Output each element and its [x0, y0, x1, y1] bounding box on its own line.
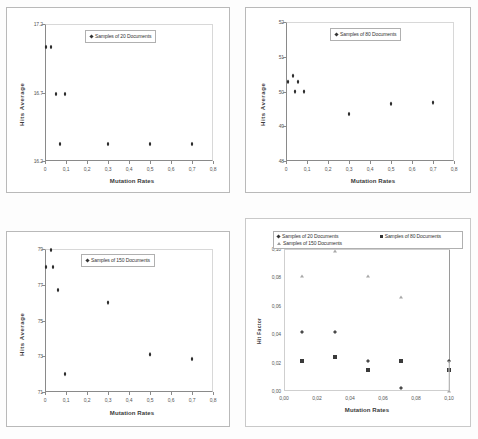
xtick-mark — [213, 392, 214, 395]
diamond-marker-icon — [89, 34, 93, 38]
xtick-mark — [66, 392, 67, 395]
ytick-label: 77 — [23, 282, 43, 288]
plot-area-150-documents — [45, 249, 213, 392]
figure-page: 17.2 16.7 16.2 0 0,1 0,2 0,3 0,4 0,5 0,6… — [0, 0, 478, 439]
xtick-label: 0,3 — [105, 166, 112, 172]
xtick-label: 0,7 — [189, 397, 196, 403]
diamond-marker-icon — [276, 234, 280, 238]
xtick-mark — [108, 161, 109, 164]
legend-label: Samples of 150 Documents — [283, 240, 342, 247]
ytick-label: 0,02 — [256, 360, 281, 366]
ytick-mark — [42, 285, 45, 286]
legend-150-documents: Samples of 150 Documents — [81, 254, 155, 267]
xtick-mark — [192, 161, 193, 164]
xtick-mark — [45, 161, 46, 164]
xtick-label: 0,5 — [388, 166, 395, 172]
xtick-label: 0,4 — [367, 166, 374, 172]
ytick-label: 48 — [264, 158, 284, 164]
ytick-label: 71 — [23, 389, 43, 395]
xtick-label: 0,4 — [126, 166, 133, 172]
legend-hit-factor: Samples of 20 Documents Samples of 150 D… — [273, 231, 463, 249]
chart-panel-hit-factor: 0,10 0,08 0,06 0,04 0,02 0,00 0,00 0,02 … — [245, 218, 471, 427]
xtick-mark — [66, 161, 67, 164]
xtick-label: 0,7 — [189, 166, 196, 172]
x-axis-title: Mutation Rates — [92, 178, 172, 184]
xtick-mark — [391, 161, 392, 164]
chart-panel-20-documents: 17.2 16.7 16.2 0 0,1 0,2 0,3 0,4 0,5 0,6… — [6, 7, 230, 193]
x-axis-title: Mutation Rates — [92, 410, 172, 416]
data-point — [333, 250, 337, 253]
xtick-label: 0,02 — [312, 395, 321, 401]
data-point — [399, 359, 403, 363]
diamond-marker-icon — [334, 32, 338, 36]
ytick-label: 16.2 — [23, 158, 43, 164]
xtick-mark — [108, 392, 109, 395]
y-axis-title: Hit Factor — [256, 318, 262, 344]
xtick-mark — [87, 392, 88, 395]
xtick-label: 0,1 — [63, 397, 70, 403]
data-point — [333, 355, 337, 359]
ytick-mark — [283, 92, 286, 93]
xtick-mark — [192, 392, 193, 395]
legend-label: Samples of 80 Documents — [340, 31, 396, 38]
legend-80-documents: Samples of 80 Documents — [330, 28, 401, 41]
xtick-label: 0,3 — [105, 397, 112, 403]
legend-label: Samples of 80 Documents — [385, 233, 441, 240]
xtick-mark — [171, 392, 172, 395]
ytick-mark — [42, 24, 45, 25]
xtick-label: 0,3 — [346, 166, 353, 172]
legend-label: Samples of 20 Documents — [95, 33, 151, 40]
ytick-mark — [283, 22, 286, 23]
data-point — [399, 296, 403, 299]
xtick-mark — [213, 161, 214, 164]
xtick-mark — [286, 161, 287, 164]
plot-artifact — [449, 361, 450, 391]
ytick-label: 79 — [23, 246, 43, 252]
xtick-label: 0,2 — [84, 397, 91, 403]
xtick-label: 0,8 — [210, 397, 217, 403]
xtick-mark — [129, 392, 130, 395]
plot-top-rule — [284, 249, 450, 250]
plot-area-20-documents — [45, 24, 213, 161]
ytick-label: 0,08 — [256, 274, 281, 280]
ytick-label: 17.2 — [23, 21, 43, 27]
chart-panel-150-documents: 79 77 75 73 71 0 0,1 0,2 0,3 0,4 0,5 — [6, 231, 230, 427]
ytick-label: 49 — [264, 123, 284, 129]
diamond-marker-icon — [85, 258, 89, 262]
y-axis-title: Hits Average — [19, 83, 25, 126]
xtick-mark — [349, 161, 350, 164]
xtick-label: 0,5 — [147, 166, 154, 172]
legend-label: Samples of 20 Documents — [282, 233, 338, 240]
ytick-label: 50 — [264, 89, 284, 95]
xtick-label: 0,8 — [451, 166, 458, 172]
xtick-label: 0,6 — [168, 397, 175, 403]
ytick-label: 75 — [23, 318, 43, 324]
y-axis-title: Hits Average — [19, 313, 25, 356]
legend-label: Samples of 150 Documents — [91, 257, 150, 264]
xtick-label: 0 — [44, 166, 47, 172]
ytick-label: 16.7 — [23, 90, 43, 96]
xtick-label: 0,00 — [279, 395, 288, 401]
xtick-label: 0,2 — [325, 166, 332, 172]
xtick-label: 0,1 — [304, 166, 311, 172]
xtick-mark — [87, 161, 88, 164]
xtick-mark — [370, 161, 371, 164]
ytick-mark — [283, 57, 286, 58]
xtick-label: 0 — [44, 397, 47, 403]
xtick-label: 0,5 — [147, 397, 154, 403]
xtick-label: 0,2 — [84, 166, 91, 172]
data-point — [366, 275, 370, 278]
data-point — [300, 275, 304, 278]
xtick-mark — [307, 161, 308, 164]
xtick-label: 0,1 — [63, 166, 70, 172]
xtick-mark — [171, 161, 172, 164]
xtick-label: 0 — [285, 166, 288, 172]
square-marker-icon — [380, 235, 383, 238]
xtick-label: 0,04 — [345, 395, 354, 401]
ytick-label: 0,00 — [256, 388, 281, 394]
xtick-mark — [45, 392, 46, 395]
x-axis-title: Mutation Rates — [333, 178, 413, 184]
xtick-mark — [328, 161, 329, 164]
xtick-mark — [150, 161, 151, 164]
ytick-label: 0,06 — [256, 303, 281, 309]
